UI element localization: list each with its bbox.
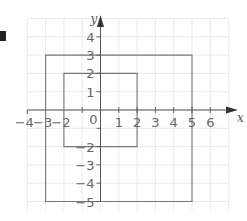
origin-label: 0 xyxy=(89,112,97,127)
y-tick-label: −5 xyxy=(75,195,94,210)
x-tick-label: −2 xyxy=(51,115,70,130)
x-tick-label: 6 xyxy=(206,115,214,130)
y-tick-label: −4 xyxy=(75,176,94,191)
x-tick-label: −3 xyxy=(33,115,52,130)
x-axis-label: x xyxy=(237,111,244,125)
x-tick-label: −4 xyxy=(15,115,34,130)
tick-labels: −4−3−212345604321−2−3−4−5xy xyxy=(15,12,244,210)
y-tick-label: 4 xyxy=(86,30,94,45)
x-tick-label: 3 xyxy=(151,115,159,130)
axes xyxy=(27,15,238,202)
y-tick-label: 1 xyxy=(86,85,94,100)
x-tick-label: 4 xyxy=(170,115,178,130)
x-tick-label: 2 xyxy=(133,115,141,130)
y-axis-arrow-icon xyxy=(97,15,104,27)
y-tick-label: 3 xyxy=(86,48,94,63)
y-tick-label: −2 xyxy=(75,140,94,155)
x-tick-label: 5 xyxy=(188,115,196,130)
y-tick-label: −3 xyxy=(75,158,94,173)
y-axis-label: y xyxy=(90,12,98,26)
y-tick-label: 2 xyxy=(86,66,94,81)
coordinate-plane: −4−3−212345604321−2−3−4−5xy xyxy=(0,0,247,221)
x-tick-label: 1 xyxy=(115,115,123,130)
